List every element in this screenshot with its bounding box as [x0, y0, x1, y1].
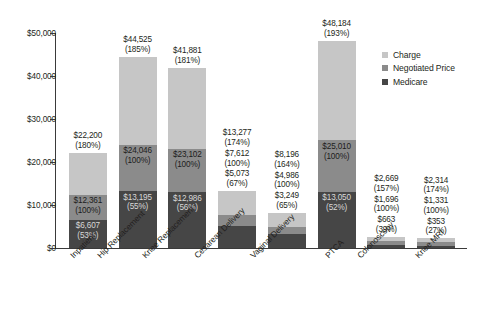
legend-item[interactable]: Charge [382, 48, 455, 62]
legend-item[interactable]: Medicare [382, 75, 455, 89]
legend-item[interactable]: Negotiated Price [382, 62, 455, 76]
legend-item-label: Medicare [393, 77, 428, 87]
bar-group[interactable] [318, 33, 356, 248]
legend-item-label: Negotiated Price [393, 63, 455, 73]
y-axis-tick-mark [50, 248, 55, 249]
legend-item-label: Charge [393, 50, 421, 60]
value-amount: $48,184 [306, 19, 368, 29]
stacked-bar[interactable] [318, 41, 356, 248]
legend-swatch-icon [382, 79, 388, 85]
legend-swatch-icon [382, 65, 388, 71]
legend-swatch-icon [382, 52, 388, 58]
chart-legend: ChargeNegotiated PriceMedicare [382, 48, 455, 89]
bar-group[interactable] [69, 33, 107, 248]
price-comparison-chart: $0$10,000$20,000$30,000$40,000$50,000 $2… [0, 0, 480, 330]
